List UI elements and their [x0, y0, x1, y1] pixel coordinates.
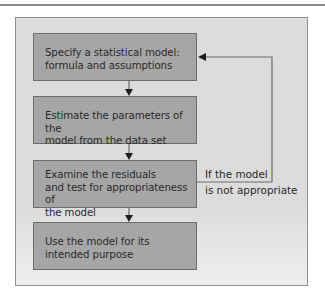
feedback-label-line1: If the model — [205, 168, 268, 180]
connector-lines — [0, 0, 325, 303]
feedback-loop-line — [197, 57, 272, 182]
arrow-down-icon — [125, 89, 133, 96]
arrow-down-icon — [125, 153, 133, 160]
arrow-down-icon — [125, 215, 133, 222]
arrow-left-icon — [198, 53, 206, 61]
feedback-label-line2: is not appropriate — [205, 184, 297, 196]
